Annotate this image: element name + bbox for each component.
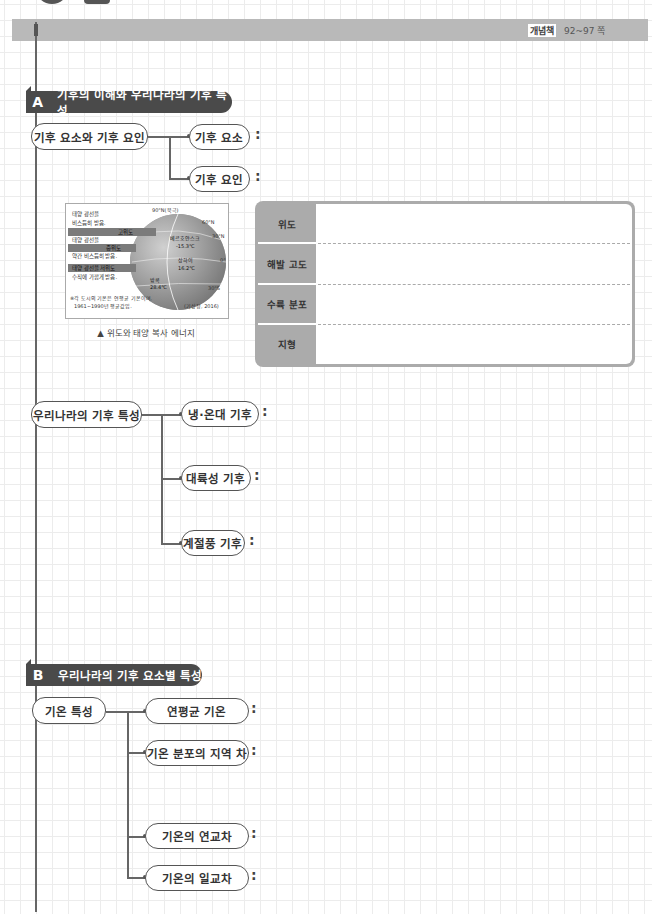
section-a-header: A 기후의 이해와 우리나라의 기후 특성 [26, 91, 232, 113]
svg-text:중위도: 중위도 [106, 244, 121, 252]
node-label: 기온의 일교차 [162, 870, 232, 886]
row-divider [258, 323, 316, 325]
factor-answer-cell[interactable] [316, 284, 632, 324]
section-b-letter: B [26, 664, 50, 686]
row-divider [258, 283, 316, 285]
section-b-header: B 우리나라의 기후 요소별 특성 [26, 664, 202, 686]
svg-text:-15.3℃: -15.3℃ [176, 243, 195, 249]
section-a-letter: A [26, 91, 49, 113]
svg-text:30°S: 30°S [208, 285, 220, 291]
svg-text:28.4℃: 28.4℃ [150, 284, 167, 290]
factor-answer-cell[interactable] [316, 243, 632, 284]
answer-colon: : [262, 403, 268, 419]
node-monsoon-climate: 계절풍 기후 [181, 530, 245, 556]
section-b-title: 우리나라의 기후 요소별 특성 [58, 667, 202, 683]
node-annual-mean-temperature: 연평균 기온 [145, 698, 249, 724]
factor-label: 해발 고도 [258, 243, 316, 284]
node-label: 기온의 연교차 [162, 828, 232, 844]
node-label: 기후 요소와 기후 요인 [34, 129, 145, 145]
factor-label: 지형 [258, 324, 316, 364]
timeline-line [35, 22, 37, 912]
header-bar [12, 19, 508, 41]
connector [127, 867, 129, 878]
connector [127, 711, 129, 867]
factor-answer-cell[interactable] [316, 324, 632, 364]
timeline-tick [34, 24, 38, 36]
svg-text:16.2℃: 16.2℃ [178, 265, 195, 271]
answer-colon: : [255, 168, 261, 184]
svg-text:태양 광선을: 태양 광선을 [72, 210, 99, 218]
node-daily-temperature-range: 기온의 일교차 [145, 865, 249, 891]
svg-text:30°N: 30°N [212, 233, 225, 239]
answer-colon: : [255, 126, 261, 142]
factor-row-altitude: 해발 고도 [258, 243, 632, 284]
factor-row-latitude: 위도 [258, 204, 632, 243]
node-climate-factors: 기후 요인 [189, 166, 250, 192]
factor-row-terrain: 지형 [258, 324, 632, 364]
node-climate-elements: 기후 요소 [189, 124, 250, 150]
svg-text:상하이: 상하이 [178, 257, 193, 264]
answer-colon: : [251, 825, 257, 841]
page-reference: 개념책 92~97 쪽 [528, 19, 605, 41]
answer-colon: : [249, 532, 255, 548]
node-temperature-characteristics: 기온 특성 [32, 697, 106, 724]
node-label: 기후 요소 [195, 129, 243, 145]
svg-text:약간 비스듬히 받음.: 약간 비스듬히 받음. [72, 252, 117, 260]
svg-text:베르호얀스크: 베르호얀스크 [170, 235, 200, 242]
node-label: 계절풍 기후 [183, 535, 242, 551]
node-regional-temperature-difference: 기온 분포의 지역 차 [145, 740, 249, 766]
figure-caption: ▲ 위도와 태양 복사 에너지 [65, 326, 227, 338]
connector [169, 136, 171, 179]
globe-diagram-icon: 태양 광선을 비스듬히 받음. 고위도 태양 광선을 중위도 약간 비스듬히 받… [66, 204, 228, 318]
chapter-title-badge [84, 0, 110, 4]
svg-text:고위도: 고위도 [118, 228, 133, 236]
svg-text:태양 광선을 저위도: 태양 광선을 저위도 [72, 264, 116, 272]
node-annual-temperature-range: 기온의 연교차 [145, 823, 249, 849]
row-divider [318, 324, 630, 325]
svg-text:90°N(북극): 90°N(북극) [152, 207, 179, 214]
node-label: 연평균 기온 [167, 703, 226, 719]
node-cold-temperate-climate: 냉·온대 기후 [181, 401, 259, 427]
node-label: 우리나라의 기후 특성 [33, 407, 140, 423]
node-label: 기후 요인 [195, 171, 243, 187]
answer-colon: : [251, 867, 257, 883]
row-divider [318, 284, 630, 285]
connector [106, 711, 146, 713]
node-label: 기온 분포의 지역 차 [147, 745, 247, 761]
node-label: 냉·온대 기후 [188, 406, 251, 422]
svg-text:(기상청, 2016): (기상청, 2016) [184, 303, 219, 310]
svg-text:방콕: 방콕 [150, 277, 160, 284]
svg-text:60°N: 60°N [202, 219, 215, 225]
answer-colon: : [254, 467, 260, 483]
svg-text:1961~1990년 평균값임.: 1961~1990년 평균값임. [74, 303, 132, 310]
climate-factor-table: 위도 해발 고도 수륙 분포 지형 [255, 201, 635, 367]
svg-text:0°: 0° [220, 257, 226, 263]
book-label: 개념책 [528, 24, 556, 37]
answer-colon: : [251, 700, 257, 716]
answer-colon: : [251, 742, 257, 758]
factor-label: 위도 [258, 204, 316, 243]
factor-label: 수륙 분포 [258, 284, 316, 324]
chapter-number-badge [36, 0, 68, 4]
latitude-solar-figure: 태양 광선을 비스듬히 받음. 고위도 태양 광선을 중위도 약간 비스듬히 받… [65, 203, 229, 319]
row-divider [258, 242, 316, 244]
svg-text:태양 광선을: 태양 광선을 [72, 236, 99, 244]
node-climate-elements-factors: 기후 요소와 기후 요인 [31, 123, 148, 150]
node-korea-climate-characteristics: 우리나라의 기후 특성 [31, 401, 142, 428]
svg-text:수직에 가깝게 받음.: 수직에 가깝게 받음. [72, 273, 117, 281]
factor-row-land-sea: 수륙 분포 [258, 284, 632, 324]
row-divider [318, 243, 630, 244]
section-a-title: 기후의 이해와 우리나라의 기후 특성 [57, 86, 232, 118]
svg-text:비스듬히 받음.: 비스듬히 받음. [72, 219, 106, 227]
svg-text:※각 도시의 기온은 연평균 기온이며,: ※각 도시의 기온은 연평균 기온이며, [70, 295, 153, 302]
page-range: 92~97 쪽 [564, 24, 605, 37]
factor-answer-cell[interactable] [316, 204, 632, 243]
node-continental-climate: 대륙성 기후 [181, 465, 251, 491]
node-label: 대륙성 기후 [186, 470, 245, 486]
node-label: 기온 특성 [45, 703, 93, 719]
